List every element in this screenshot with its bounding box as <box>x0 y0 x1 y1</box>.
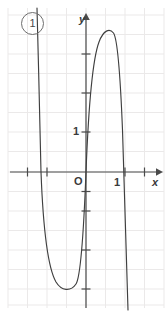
origin-label: O <box>74 176 83 187</box>
graph-figure: y x 1 1 O 1 <box>0 0 167 318</box>
y-axis-label: y <box>79 14 85 25</box>
item-number-badge: 1 <box>21 12 44 35</box>
cubic-curve <box>37 8 128 310</box>
x-tick-label-one: 1 <box>114 177 120 188</box>
y-tick-label-one: 1 <box>73 126 79 137</box>
cubic-graph-plot <box>0 0 167 318</box>
x-axis-label: x <box>152 177 158 188</box>
